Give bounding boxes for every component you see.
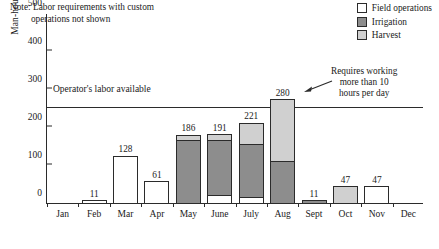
legend-label-field-operations: Field operations: [372, 3, 432, 13]
bar-segment-field-operations: [113, 156, 138, 205]
bar-july: 221: [239, 123, 264, 203]
bar-segment-irrigation: [239, 144, 264, 198]
legend-item-field-operations: Field operations: [357, 3, 432, 13]
bar-segment-harvest: [239, 123, 264, 146]
x-axis-tick-label: Dec: [401, 209, 416, 219]
operator-labor-label: Operator's labor available: [53, 84, 151, 96]
x-axis-tick-label: Aug: [274, 209, 290, 219]
bar-mar: 128: [113, 156, 138, 203]
y-axis-tick-mark: [47, 126, 52, 127]
plot-inner: 0100200300400500Operator's labor availab…: [47, 14, 423, 203]
x-axis-tick-mark: [47, 203, 48, 207]
bar-value-label: 186: [181, 123, 195, 135]
x-axis-tick-mark: [361, 203, 362, 207]
x-axis-tick-label: May: [180, 209, 197, 219]
x-axis-tick-label: Nov: [369, 209, 385, 219]
x-axis-tick-mark: [330, 203, 331, 207]
bar-segment-irrigation: [176, 140, 201, 204]
bar-value-label: 191: [213, 123, 227, 135]
bar-value-label: 47: [341, 175, 350, 187]
y-axis-tick-label: 0: [37, 188, 47, 198]
bar-segment-irrigation: [207, 140, 232, 196]
bar-value-label: 61: [152, 170, 161, 182]
bar-value-label: 47: [372, 175, 381, 187]
bar-may: 186: [176, 135, 201, 203]
bar-value-label: 221: [244, 111, 258, 123]
x-axis-tick-label: June: [211, 209, 228, 219]
y-axis-tick-label: 200: [28, 112, 47, 122]
x-axis-tick-label: Jan: [56, 209, 69, 219]
x-axis-tick-mark: [78, 203, 79, 207]
x-axis-tick-mark: [393, 203, 394, 207]
bar-value-label: 128: [119, 144, 133, 156]
y-axis-tick-mark: [47, 88, 52, 89]
x-axis-tick-mark: [110, 203, 111, 207]
x-axis-tick-label: Feb: [87, 209, 101, 219]
chart-container: Note: Labor requirements with custom ope…: [0, 0, 439, 249]
bar-segment-field-operations: [364, 186, 389, 204]
bar-segment-irrigation: [270, 161, 295, 205]
x-axis-tick-mark: [298, 203, 299, 207]
y-axis-tick-label: 300: [28, 74, 47, 84]
x-axis-tick-mark: [141, 203, 142, 207]
y-axis-tick-mark: [47, 50, 52, 51]
y-axis-tick-label: 100: [28, 150, 47, 160]
x-axis-tick-mark: [236, 203, 237, 207]
bar-value-label: 11: [310, 189, 319, 201]
bar-aug: 280: [270, 99, 295, 203]
bar-apr: 61: [144, 181, 169, 203]
bar-feb: 11: [82, 200, 107, 203]
bar-oct: 47: [333, 186, 358, 203]
operator-labor-line: [47, 107, 423, 108]
bar-segment-field-operations: [144, 181, 169, 204]
bar-segment-field-operations: [82, 200, 107, 204]
y-axis-label: Man-hours required: [10, 0, 20, 66]
bar-sept: 11: [302, 200, 327, 203]
bar-value-label: 11: [90, 189, 99, 201]
x-axis-tick-label: Sept: [306, 209, 323, 219]
y-axis-tick-label: 400: [28, 36, 47, 46]
x-axis-tick-mark: [204, 203, 205, 207]
y-axis-tick-label: 500: [28, 0, 47, 8]
bar-segment-harvest: [270, 99, 295, 162]
bar-segment-field-operations: [207, 195, 232, 205]
plot-area: Man-hours required 0100200300400500Opera…: [46, 14, 423, 204]
x-axis-tick-label: Apr: [150, 209, 165, 219]
x-axis-tick-mark: [267, 203, 268, 207]
bar-value-label: 280: [276, 88, 290, 100]
x-axis-tick-label: July: [243, 209, 259, 219]
legend-swatch-field-operations: [357, 3, 367, 13]
bar-segment-field-operations: [239, 197, 264, 204]
y-axis-tick-mark: [47, 164, 52, 165]
bar-segment-irrigation: [302, 200, 327, 204]
x-axis-tick-label: Oct: [339, 209, 353, 219]
bar-june: 191: [207, 134, 232, 203]
x-axis-tick-label: Mar: [118, 209, 134, 219]
x-axis-tick-mark: [173, 203, 174, 207]
bar-segment-harvest: [333, 186, 358, 204]
bar-nov: 47: [364, 186, 389, 203]
